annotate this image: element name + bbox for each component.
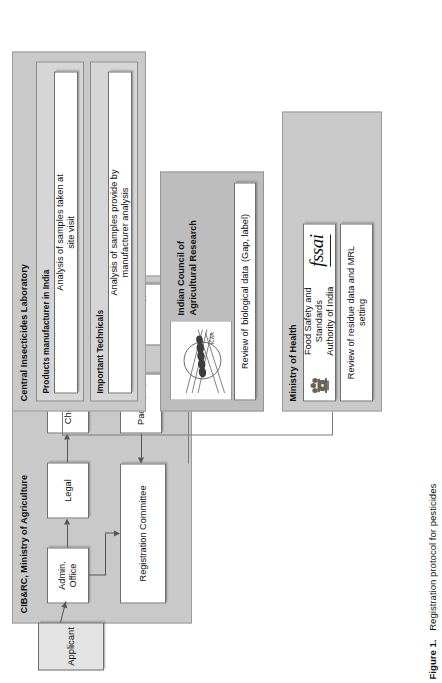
cil-group-2-label: Important Technicals: [95, 309, 105, 393]
cil-group-1-label: Products manufacturer in India: [41, 269, 51, 393]
node-legal: Legal: [47, 462, 89, 518]
india-state-emblem-icon: [307, 374, 333, 396]
admin-office-line2: Office: [68, 563, 79, 587]
icar-logo: ICAR: [170, 320, 232, 400]
fssai-logo: fssai: [306, 234, 330, 266]
cil-group-2-task: Analysis of samples provide by manufactu…: [108, 71, 132, 393]
bracket-branch-cil: [62, 411, 63, 435]
icar-task-text: Review of biological data (Gap, label): [240, 213, 251, 368]
icar-title: Indian Council of Agricultural Research: [176, 220, 199, 315]
arrow-packaging-to-regcom: [138, 457, 144, 463]
connector-legal-to-chemistry: [67, 439, 68, 462]
cil-group-1-task-line2: site visit: [66, 216, 77, 249]
icar-title-line2: Agricultural Research: [188, 220, 200, 315]
moh-task-line1: Review of residue data and MRL: [346, 245, 357, 378]
arrow-admin-to-regcom: [114, 531, 120, 537]
node-legal-label: Legal: [63, 479, 74, 501]
cil-title: Central Insecticides Laboratory: [19, 264, 29, 401]
icar-title-line1: Indian Council of: [176, 220, 188, 315]
connector-packaging-to-regcom: [141, 433, 142, 457]
cibrc-panel-title: CIB&RC, Ministry of Agriculture: [19, 475, 29, 614]
node-admin-office: Admin. Office: [47, 547, 89, 603]
icar-task-line1: Review of: [240, 328, 251, 368]
icar-task-line2: biological data: [240, 265, 251, 324]
bracket-branch-icar: [188, 411, 189, 435]
figure-caption-text: Registration protocol for pesticides: [427, 483, 438, 630]
connector-admin-into-regcom: [105, 532, 114, 533]
cil-group-2-task-line1: Analysis of samples provide by: [109, 169, 120, 295]
fssai-authority-card: Food Safety and Standards Authority of I…: [303, 223, 336, 401]
bracket-branch-moh: [332, 411, 333, 435]
node-applicant: Applicant: [38, 622, 104, 670]
arrow-applicant-to-admin: [61, 600, 68, 607]
cil-group-2-task-line2: manufacturer analysis: [120, 187, 131, 277]
cil-group-1-task-line1: Analysis of samples taken at: [55, 174, 66, 290]
cil-group-1-task: Analysis of samples taken at site visit: [54, 71, 78, 393]
connector-admin-down: [89, 574, 105, 575]
figure-canvas: CIB&RC, Ministry of Agriculture Admin. O…: [0, 0, 442, 683]
connector-admin-to-legal: [67, 524, 68, 547]
fssai-name-line2: Authority of India: [325, 286, 336, 355]
bracket-stem: [188, 435, 189, 463]
fssai-name-line1: Food Safety and Standards: [303, 270, 325, 371]
moh-task-box: Review of residue data and MRL setting: [340, 223, 373, 401]
node-registration-committee: Registration Committee: [120, 463, 166, 603]
icar-task-line3: (Gap, label): [240, 213, 251, 261]
bracket-spine: [62, 434, 332, 435]
svg-text:ICAR: ICAR: [209, 331, 215, 344]
admin-office-line1: Admin.: [57, 561, 68, 590]
node-applicant-label: Applicant: [65, 627, 76, 666]
node-registration-committee-label: Registration Committee: [138, 485, 149, 581]
connector-admin-across: [105, 533, 106, 575]
icar-task-box: Review of biological data (Gap, label): [234, 182, 256, 400]
moh-task-line2: setting: [357, 298, 368, 325]
arrow-admin-to-legal: [64, 518, 70, 524]
figure-caption: Figure 1. Registration protocol for pest…: [427, 0, 438, 679]
figure-caption-number: Figure 1.: [427, 639, 438, 679]
ministry-of-health-title: Ministry of Health: [288, 324, 298, 401]
